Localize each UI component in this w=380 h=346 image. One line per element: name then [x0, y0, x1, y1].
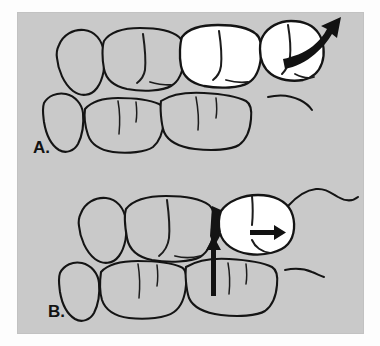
- panel-a-lower-groove-2: [136, 102, 137, 122]
- panel-a-lower-tooth-3: [161, 93, 252, 150]
- panel-a-lower-arch-tail: [268, 96, 312, 110]
- panel-b-lower-groove-4: [246, 264, 247, 284]
- panel-b-upper-arch-wavy-tail: [288, 189, 358, 206]
- panel-b-lower-arch-tail: [285, 269, 324, 277]
- panel-b-group: B.: [48, 189, 358, 321]
- panel-b-lower-groove-2: [157, 265, 158, 286]
- panel-b-lower-tooth-2: [100, 261, 186, 319]
- panel-a-group: A.: [33, 17, 341, 157]
- panel-b-lower-tooth-3: [186, 259, 278, 316]
- panel-a-upper-tooth-1: [57, 30, 105, 95]
- panel-a-label: A.: [33, 138, 50, 157]
- dental-illustration-svg: A.: [0, 0, 380, 346]
- panel-b-upper-groove-3: [252, 196, 253, 225]
- panel-a-lower-tooth-2: [85, 98, 165, 153]
- panel-b-upper-tooth-1: [79, 198, 127, 263]
- figure-root: A.: [0, 0, 380, 346]
- panel-a-lower-groove-4: [216, 98, 217, 118]
- panel-b-label: B.: [48, 302, 65, 321]
